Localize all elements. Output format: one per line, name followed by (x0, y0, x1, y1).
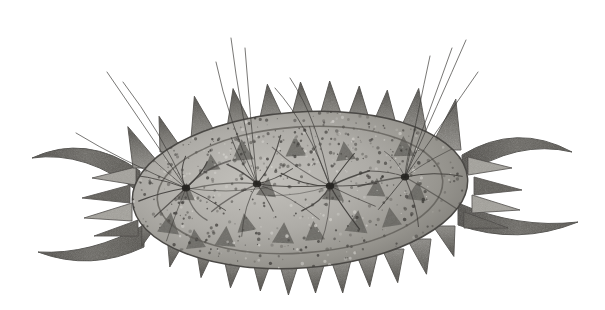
hub-3 (326, 183, 334, 190)
organism-illustration (0, 0, 605, 310)
hub-4 (401, 174, 409, 181)
hub-2 (253, 181, 261, 188)
hub-1 (182, 185, 190, 192)
figure-root: spiny ostracod-like microorganism, dorsa… (0, 0, 605, 310)
